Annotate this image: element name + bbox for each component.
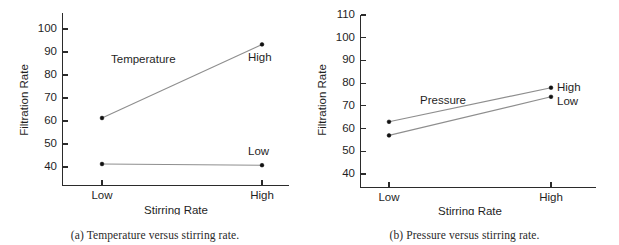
chart-b-x-ticks <box>389 182 551 188</box>
chart-b-ytick-70: 70 <box>342 99 355 111</box>
chart-b-ytick-60: 60 <box>342 122 355 134</box>
interaction-plot-figure: 100 90 80 70 60 50 40 Low High Stirring … <box>0 0 619 245</box>
panel-temperature-vs-stirring-rate: 100 90 80 70 60 50 40 Low High Stirring … <box>0 0 310 245</box>
chart-a-ytick-90: 90 <box>44 45 57 57</box>
chart-b-ytick-80: 80 <box>342 76 355 88</box>
chart-a-series-label-low: Low <box>248 145 270 157</box>
chart-a-ytick-70: 70 <box>44 91 57 103</box>
chart-b-series-high-line <box>389 88 551 122</box>
chart-a-y-axis-title: Filtration Rate <box>18 64 30 136</box>
chart-b-xtick-high: High <box>539 191 563 203</box>
chart-b-caption: (b) Pressure versus stirring rate. <box>310 229 619 241</box>
chart-b-ytick-90: 90 <box>342 53 355 65</box>
chart-a-factor-label: Temperature <box>111 53 176 65</box>
chart-a-xtick-high: High <box>250 189 274 201</box>
chart-a-ytick-40: 40 <box>44 160 57 172</box>
chart-b-y-axis-title: Filtration Rate <box>316 64 328 136</box>
chart-a-x-axis-title: Stirring Rate <box>144 204 208 215</box>
chart-a-x-ticks <box>102 180 262 186</box>
chart-b-ytick-50: 50 <box>342 144 355 156</box>
chart-a-series-low-line <box>102 164 262 165</box>
chart-a-ytick-50: 50 <box>44 137 57 149</box>
chart-b-canvas: 110 100 90 80 70 60 50 40 Low High Stirr… <box>310 0 619 215</box>
chart-b-series-low-line <box>389 97 551 136</box>
chart-a-ytick-80: 80 <box>44 68 57 80</box>
panel-pressure-vs-stirring-rate: 110 100 90 80 70 60 50 40 Low High Stirr… <box>310 0 619 245</box>
chart-b-y-ticks <box>361 15 367 174</box>
chart-a-caption: (a) Temperature versus stirring rate. <box>0 229 310 241</box>
chart-a-xtick-low: Low <box>91 189 113 201</box>
chart-b-ytick-40: 40 <box>342 167 355 179</box>
chart-b-ytick-100: 100 <box>336 31 355 43</box>
chart-a-ytick-100: 100 <box>38 22 57 34</box>
chart-b-factor-label: Pressure <box>420 94 466 106</box>
chart-a-canvas: 100 90 80 70 60 50 40 Low High Stirring … <box>0 0 310 215</box>
chart-b-x-axis-title: Stirring Rate <box>438 205 502 215</box>
chart-b-xtick-low: Low <box>378 191 400 203</box>
chart-a-ytick-60: 60 <box>44 114 57 126</box>
chart-a-series-label-high: High <box>248 51 272 63</box>
chart-a-y-ticks <box>63 29 69 167</box>
chart-b-series-label-high: High <box>557 81 581 93</box>
chart-b-series-label-low: Low <box>557 95 579 107</box>
chart-b-ytick-110: 110 <box>337 8 355 20</box>
